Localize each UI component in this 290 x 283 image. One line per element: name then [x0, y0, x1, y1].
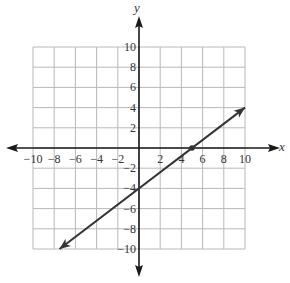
y-tick-label: −6 — [123, 202, 136, 216]
coordinate-plane: −10−8−6−4−2246810108642−2−4−6−8−10 x y — [0, 0, 290, 283]
x-tick-label: 8 — [221, 152, 227, 166]
x-tick-label: 2 — [157, 152, 163, 166]
line-end-arrow-icon — [234, 108, 245, 118]
x-tick-label: −4 — [90, 152, 103, 166]
x-axis-label: x — [278, 139, 285, 154]
y-tick-label: 10 — [124, 40, 136, 54]
y-tick-label: 4 — [130, 101, 136, 115]
y-tick-label: 8 — [130, 60, 136, 74]
y-tick-label: −8 — [123, 222, 136, 236]
x-tick-label: −10 — [24, 152, 43, 166]
line-start-arrow-icon — [60, 239, 71, 249]
plotted-line — [60, 108, 246, 249]
y-axis-label: y — [132, 0, 140, 15]
y-tick-label: −2 — [123, 161, 136, 175]
y-tick-label: −10 — [117, 242, 136, 256]
axes — [6, 16, 280, 277]
x-tick-label: −6 — [69, 152, 82, 166]
data-line — [60, 108, 246, 249]
x-tick-label: −8 — [48, 152, 61, 166]
y-tick-label: 6 — [130, 80, 136, 94]
x-tick-label: 6 — [200, 152, 206, 166]
x-intercept-point — [189, 145, 195, 151]
y-tick-label: 2 — [130, 121, 136, 135]
x-tick-label: 10 — [239, 152, 251, 166]
